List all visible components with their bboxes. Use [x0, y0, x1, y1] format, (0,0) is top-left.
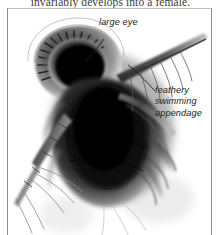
annotation-line-1: feathery — [155, 85, 202, 96]
annotation-feathery-swimming-appendage: feathery swimming appendage — [155, 85, 202, 119]
figure-rule-right — [211, 8, 212, 235]
copepod-illustration — [8, 9, 211, 235]
annotation-line-2: swimming — [155, 96, 202, 107]
annotation-line-3: appendage — [155, 108, 202, 119]
page-body-text: invariably develops into a female. — [0, 0, 221, 8]
figure-page: invariably develops into a female. — [0, 0, 221, 235]
annotation-large-eye: large eye — [99, 17, 138, 28]
copepod-photomicrograph — [8, 9, 211, 235]
